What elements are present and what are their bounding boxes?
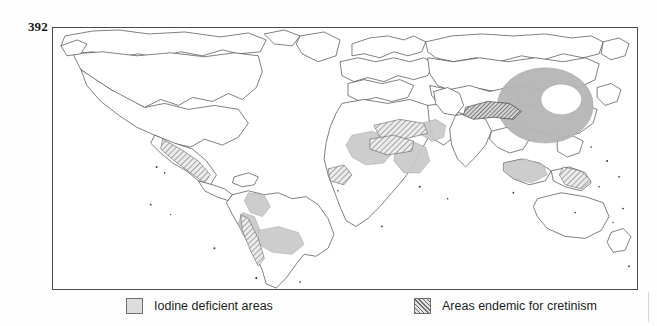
legend-label-iodine-deficient: Iodine deficient areas <box>154 300 273 313</box>
textbook-page: 392 <box>0 0 657 326</box>
map-legend: Iodine deficient areas Areas endemic for… <box>52 296 638 322</box>
legend-swatch-solid-gray <box>126 298 143 314</box>
legend-swatch-hatched <box>414 298 431 314</box>
legend-item-cretinism-endemic: Areas endemic for cretinism <box>414 298 597 314</box>
overlay-china-inner-void <box>541 85 581 115</box>
scan-edge-artifact <box>648 292 649 322</box>
world-map-figure <box>52 27 638 290</box>
legend-item-iodine-deficient: Iodine deficient areas <box>126 298 273 314</box>
region-europe <box>340 58 434 82</box>
page-number: 392 <box>8 19 48 35</box>
legend-label-cretinism-endemic: Areas endemic for cretinism <box>442 300 597 313</box>
world-map-svg <box>53 28 637 289</box>
